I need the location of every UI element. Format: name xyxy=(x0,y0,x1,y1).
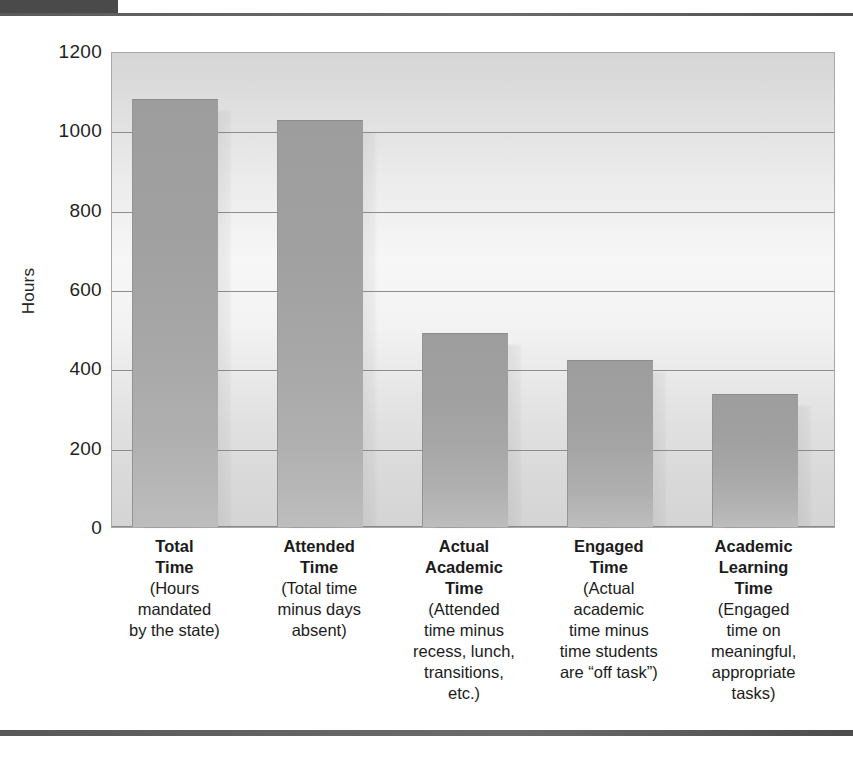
x-label-description: (Actualacademictime minustime studentsar… xyxy=(534,578,684,683)
bar-attended-time[interactable] xyxy=(277,120,363,527)
x-label-academic-learning-time: AcademicLearningTime(Engagedtime onmeani… xyxy=(679,536,829,704)
y-axis-tick-labels: 120010008006004002000 xyxy=(40,16,102,536)
y-axis-tick-1200: 1200 xyxy=(40,41,102,63)
bar-engaged-time[interactable] xyxy=(567,360,653,527)
x-label-name: TotalTime xyxy=(99,536,249,578)
bar-total-time[interactable] xyxy=(132,99,218,527)
x-label-description: (Attendedtime minusrecess, lunch,transit… xyxy=(389,599,539,704)
y-axis-tick-400: 400 xyxy=(40,358,102,380)
x-label-total-time: TotalTime(Hoursmandatedby the state) xyxy=(99,536,249,641)
x-label-description: (Total timeminus daysabsent) xyxy=(244,578,394,641)
header-caption xyxy=(128,0,828,8)
x-axis-category-labels: TotalTime(Hoursmandatedby the state)Atte… xyxy=(111,536,835,726)
y-axis-title: Hours xyxy=(19,246,39,336)
x-label-description: (Engagedtime onmeaningful,appropriatetas… xyxy=(679,599,829,704)
header-band xyxy=(0,0,853,16)
plot-area xyxy=(111,52,835,528)
y-axis-tick-1000: 1000 xyxy=(40,120,102,142)
bar-chart-figure: Hours 120010008006004002000 TotalTime(Ho… xyxy=(0,16,853,730)
x-label-actual-academic-time: ActualAcademicTime(Attendedtime minusrec… xyxy=(389,536,539,704)
y-axis-tick-600: 600 xyxy=(40,279,102,301)
x-label-engaged-time: EngagedTime(Actualacademictime minustime… xyxy=(534,536,684,683)
x-label-name: EngagedTime xyxy=(534,536,684,578)
bar-academic-learning-time[interactable] xyxy=(712,394,798,527)
footer-divider-rule xyxy=(0,730,853,736)
x-label-name: ActualAcademicTime xyxy=(389,536,539,599)
header-tab-block xyxy=(0,0,118,13)
x-label-name: AcademicLearningTime xyxy=(679,536,829,599)
y-axis-tick-800: 800 xyxy=(40,200,102,222)
x-label-attended-time: AttendedTime(Total timeminus daysabsent) xyxy=(244,536,394,641)
y-axis-tick-200: 200 xyxy=(40,438,102,460)
bar-actual-academic-time[interactable] xyxy=(422,333,508,527)
y-axis-tick-0: 0 xyxy=(40,517,102,539)
x-label-description: (Hoursmandatedby the state) xyxy=(99,578,249,641)
x-label-name: AttendedTime xyxy=(244,536,394,578)
